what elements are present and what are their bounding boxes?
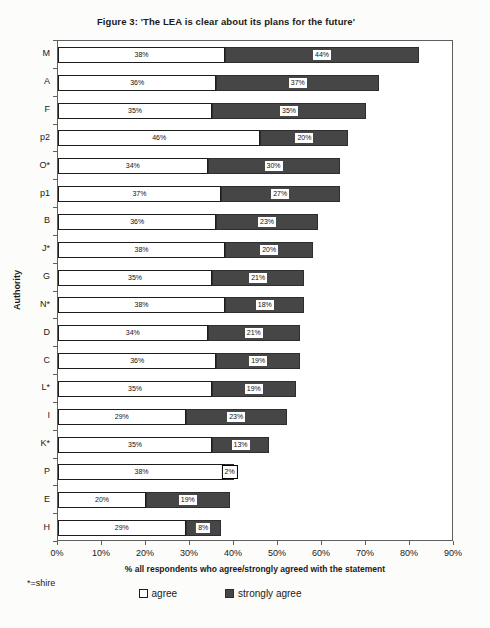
plot-area: 38%44%36%37%35%35%46%20%34%30%37%27%36%2… [57,40,453,541]
agree-swatch-icon [139,589,148,598]
bar-label-strongly-agree: 37% [289,78,307,88]
y-axis-tick [53,179,57,180]
x-tick-label: 60% [301,548,341,558]
y-axis-tick [53,124,57,125]
footnote-shire: *=shire [27,578,55,588]
bar-label-strongly-agree: 20% [260,245,278,255]
category-label: I [8,411,50,420]
category-label: E [8,495,50,504]
x-tick-label: 20% [125,548,165,558]
bar-label-agree: 34% [126,162,140,170]
x-axis-tick [233,541,234,545]
bar-label-strongly-agree: 44% [313,50,331,60]
y-axis-tick [53,513,57,514]
bar-label-strongly-agree: 8% [196,523,210,533]
y-axis-tick [53,235,57,236]
category-label: p1 [8,189,50,198]
category-label: O* [8,161,50,170]
legend-item-agree: agree [139,588,178,599]
x-tick-label: 90% [433,548,473,558]
x-tick-label: 0% [37,548,77,558]
bar-label-agree: 35% [128,107,142,115]
bar-label-agree: 36% [130,218,144,226]
y-axis-tick [53,291,57,292]
bar-label-agree: 29% [115,524,129,532]
category-label: G [8,272,50,281]
bar-label-strongly-agree: 23% [258,217,276,227]
bar-label-agree: 38% [135,246,149,254]
x-axis-tick [189,541,190,545]
bar-label-agree: 36% [130,79,144,87]
x-tick-label: 40% [213,548,253,558]
y-axis-tick [53,458,57,459]
y-axis-tick [53,68,57,69]
y-axis-tick [53,96,57,97]
bar-label-agree: 36% [130,357,144,365]
bar-label-strongly-agree: 35% [280,106,298,116]
bar-label-agree: 29% [115,413,129,421]
bar-label-agree: 34% [126,329,140,337]
bar-label-strongly-agree: 30% [265,161,283,171]
y-axis-tick [53,318,57,319]
x-axis-title: % all respondents who agree/strongly agr… [57,564,453,574]
category-label: J* [8,244,50,253]
category-label: H [8,523,50,532]
y-axis-tick [53,263,57,264]
category-label: D [8,328,50,337]
legend-item-strongly-agree: strongly agree [225,588,301,599]
y-axis-tick [53,485,57,486]
bar-label-strongly-agree: 19% [245,384,263,394]
bar-label-agree: 38% [135,468,149,476]
x-axis-tick [365,541,366,545]
x-axis-tick [453,541,454,545]
y-axis-tick [53,40,57,41]
x-axis-tick [57,541,58,545]
y-axis-tick [53,207,57,208]
category-label: P [8,467,50,476]
y-axis-tick [53,346,57,347]
bar-label-strongly-agree: 20% [295,133,313,143]
chart-title: Figure 3: 'The LEA is clear about its pl… [0,16,452,27]
category-label: B [8,216,50,225]
bar-label-agree: 38% [135,51,149,59]
x-tick-label: 30% [169,548,209,558]
x-tick-label: 50% [257,548,297,558]
legend-label-agree: agree [152,588,178,599]
category-label: N* [8,300,50,309]
category-label: A [8,77,50,86]
bar-label-strongly-agree: 27% [271,189,289,199]
y-axis-tick [53,374,57,375]
category-label: F [8,105,50,114]
y-axis-tick [53,430,57,431]
x-tick-label: 10% [81,548,121,558]
category-label: p2 [8,133,50,142]
bar-label-strongly-agree: 2% [222,465,238,479]
legend: agree strongly agree [0,588,440,599]
figure-3-chart: Figure 3: 'The LEA is clear about its pl… [0,0,490,628]
bar-label-agree: 38% [135,301,149,309]
bar-label-strongly-agree: 21% [249,273,267,283]
y-axis-tick [53,151,57,152]
category-label: L* [8,383,50,392]
x-tick-label: 70% [345,548,385,558]
bar-label-agree: 35% [128,274,142,282]
x-axis-tick [277,541,278,545]
x-axis-tick [409,541,410,545]
x-tick-label: 80% [389,548,429,558]
x-axis-tick [321,541,322,545]
y-axis-tick [53,402,57,403]
bar-label-strongly-agree: 18% [256,300,274,310]
category-label: C [8,356,50,365]
category-label: M [8,49,50,58]
bar-label-strongly-agree: 19% [249,356,267,366]
bar-label-agree: 35% [128,441,142,449]
bar-label-agree: 37% [132,190,146,198]
bar-label-strongly-agree: 13% [232,440,250,450]
bar-label-agree: 46% [152,134,166,142]
bar-label-strongly-agree: 21% [245,328,263,338]
bar-label-agree: 35% [128,385,142,393]
category-label: K* [8,439,50,448]
bar-label-agree: 20% [95,496,109,504]
strongly-agree-swatch-icon [225,589,234,598]
bar-label-strongly-agree: 19% [179,495,197,505]
